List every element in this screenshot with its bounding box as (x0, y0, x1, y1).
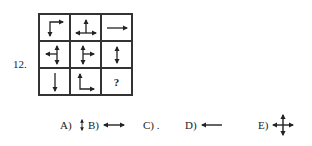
option-d[interactable]: D) (185, 112, 224, 138)
option-c-label: C) . (143, 119, 160, 131)
up-down-arrow-icon (103, 43, 131, 67)
option-b-label: B) (88, 119, 99, 131)
option-b[interactable]: B) (88, 112, 126, 138)
option-d-label: D) (185, 119, 197, 131)
four-way-arrows-icon (271, 113, 295, 137)
grid-cell-r1c2 (70, 14, 101, 41)
grid-cell-r2c1 (39, 41, 70, 68)
question-mark: ? (114, 76, 120, 88)
three-way-up-down-right-arrows-icon (72, 43, 100, 67)
left-right-arrow-icon (102, 113, 126, 137)
option-a-label: A) (60, 119, 72, 131)
question-number: 12. (13, 58, 27, 70)
down-arrow-icon (41, 70, 69, 94)
grid-cell-r3c3: ? (101, 68, 132, 95)
grid-cell-r3c2 (70, 68, 101, 95)
corner-up-right-arrows-icon (72, 70, 100, 94)
three-way-up-down-left-arrows-icon (41, 43, 69, 67)
three-way-up-left-right-arrows-icon (72, 16, 100, 40)
grid-cell-r1c1 (39, 14, 70, 41)
left-arrow-icon (200, 113, 224, 137)
corner-right-down-arrows-icon (41, 16, 69, 40)
grid-cell-r2c2 (70, 41, 101, 68)
option-c[interactable]: C) . (143, 112, 163, 138)
option-a[interactable]: A) (60, 112, 89, 138)
grid-cell-r3c1 (39, 68, 70, 95)
up-down-arrow-icon (75, 113, 89, 137)
right-arrow-icon (103, 16, 131, 40)
grid-cell-r1c3 (101, 14, 132, 41)
grid-cell-r2c3 (101, 41, 132, 68)
option-e-label: E) (258, 119, 268, 131)
puzzle-grid: ? (38, 13, 133, 96)
option-e[interactable]: E) (258, 112, 295, 138)
